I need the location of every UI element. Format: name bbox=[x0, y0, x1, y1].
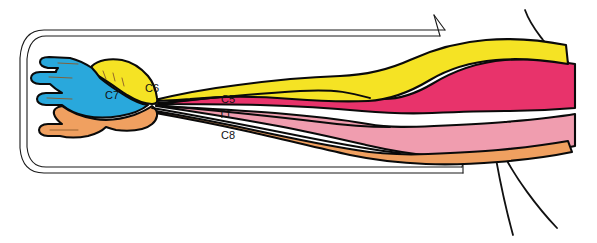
dermatome-figure: C7 C6 C5 T1 C8 bbox=[0, 0, 597, 243]
frame-border-cap-top bbox=[434, 15, 445, 36]
label-c7: C7 bbox=[105, 89, 119, 101]
label-c5: C5 bbox=[221, 93, 235, 105]
dermatome-illustration: C7 C6 C5 T1 C8 bbox=[0, 0, 597, 243]
torso-contour bbox=[496, 157, 557, 235]
label-c8: C8 bbox=[221, 129, 235, 141]
label-t1: T1 bbox=[219, 108, 232, 120]
label-c6: C6 bbox=[145, 82, 159, 94]
